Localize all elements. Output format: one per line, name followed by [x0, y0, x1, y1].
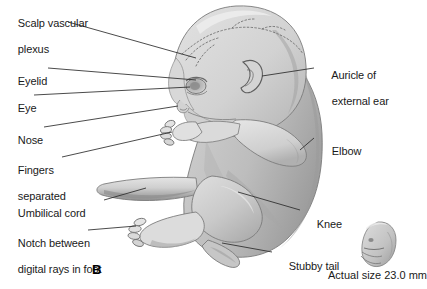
leader-nose	[44, 106, 178, 127]
figure-root: Scalp vascular plexus Eyelid Eye Nose Fi…	[0, 0, 427, 289]
label-elbow-text: Elbow	[332, 145, 361, 157]
label-umbilical-cord-text: Umbilical cord	[18, 207, 86, 219]
leader-fingers-separated	[62, 132, 172, 157]
label-notch-digital-rays-foot-line2: digital rays in foot	[18, 263, 102, 275]
label-scalp-vascular-plexus-line2: plexus	[18, 43, 49, 55]
actual-size-caption: Actual size 23.0 mm	[328, 269, 427, 281]
label-eyelid-text: Eyelid	[18, 75, 47, 87]
label-auricle-external-ear: Auricle of external ear	[320, 56, 389, 121]
label-notch-digital-rays-foot: Notch between digital rays in foot	[6, 224, 101, 289]
actual-size-inset-embryo	[361, 222, 396, 267]
label-scalp-vascular-plexus: Scalp vascular plexus	[6, 4, 88, 69]
label-auricle-external-ear-line1: Auricle of	[331, 69, 376, 81]
label-scalp-vascular-plexus-line1: Scalp vascular	[18, 17, 88, 29]
label-knee-text: Knee	[317, 218, 342, 230]
leader-eye	[34, 87, 190, 95]
label-fingers-separated-line1: Fingers	[18, 164, 54, 176]
label-auricle-external-ear-line2: external ear	[332, 95, 389, 107]
umbilical-cord-shape	[97, 177, 198, 200]
label-nose-text: Nose	[18, 134, 43, 146]
panel-letter: B	[92, 262, 101, 277]
label-notch-digital-rays-foot-line1: Notch between	[18, 237, 90, 249]
label-knee: Knee	[305, 205, 342, 244]
label-eye-text: Eye	[18, 102, 37, 114]
label-elbow: Elbow	[320, 132, 361, 171]
